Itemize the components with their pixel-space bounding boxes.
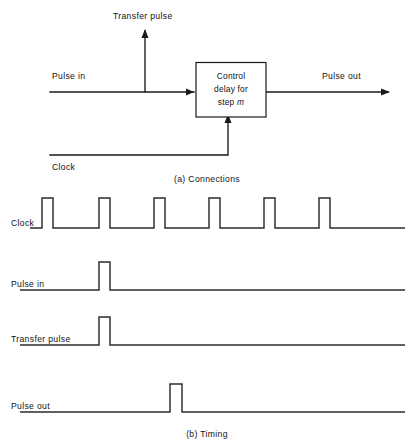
label-clock: Clock bbox=[52, 162, 76, 172]
label-pulse-out: Pulse out bbox=[322, 71, 361, 81]
control-block-line1: Control bbox=[217, 71, 245, 81]
waveform-clock bbox=[30, 198, 405, 228]
control-block-step-prefix: step bbox=[218, 97, 237, 107]
part-b-timing: Clock Pulse in Transfer pulse Pulse out … bbox=[11, 198, 405, 439]
label-pulse-in: Pulse in bbox=[52, 71, 85, 81]
clock-wire bbox=[50, 117, 228, 155]
waveform-label-transfer-pulse: Transfer pulse bbox=[11, 334, 71, 344]
waveform-transfer-pulse bbox=[20, 317, 405, 345]
caption-part-b: (b) Timing bbox=[186, 429, 228, 439]
control-block-line2: delay for bbox=[214, 84, 248, 94]
control-block-step-variable: m bbox=[237, 97, 244, 107]
pulse-out-arrowhead bbox=[381, 88, 390, 95]
part-a-connections: Control delay for step m Pulse in Transf… bbox=[50, 11, 390, 184]
figure-container: Control delay for step m Pulse in Transf… bbox=[0, 0, 415, 442]
pulse-in-arrowhead bbox=[186, 88, 194, 95]
control-block-line3: step m bbox=[218, 97, 244, 107]
waveform-pulse-out bbox=[20, 384, 405, 412]
waveform-label-pulse-in: Pulse in bbox=[11, 279, 44, 289]
figure-svg: Control delay for step m Pulse in Transf… bbox=[0, 0, 415, 442]
waveform-pulse-in bbox=[20, 262, 405, 290]
caption-part-a: (a) Connections bbox=[174, 174, 240, 184]
label-transfer-pulse: Transfer pulse bbox=[113, 11, 173, 21]
transfer-pulse-arrowhead bbox=[142, 29, 149, 38]
waveform-label-pulse-out: Pulse out bbox=[11, 401, 50, 411]
waveform-label-clock: Clock bbox=[11, 218, 35, 228]
